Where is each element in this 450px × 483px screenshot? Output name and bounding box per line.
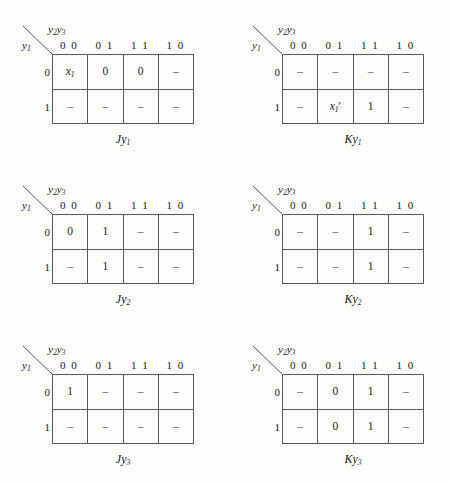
literal-value: 0 xyxy=(103,66,109,78)
column-variable-label: y2y3 xyxy=(278,343,295,355)
kmap-cell: 1 xyxy=(354,90,389,123)
row-header: 1 xyxy=(258,409,280,444)
column-header: 0 1 xyxy=(318,359,354,371)
dont-care-symbol: – xyxy=(173,101,179,113)
column-header: 0 0 xyxy=(52,359,88,371)
kmap-cell: – xyxy=(318,55,353,89)
kmap-cell: – xyxy=(389,55,423,89)
row-header-column: 01 xyxy=(28,374,50,444)
kmap-grid-row: –––– xyxy=(53,409,193,443)
row-header: 1 xyxy=(28,249,50,284)
column-header: 1 0 xyxy=(389,359,425,371)
dont-care-symbol: – xyxy=(173,261,179,273)
kmap-ky2: y2y3y10 00 11 11 001––1–––1–Ky2 xyxy=(244,182,444,332)
kmap-cell: – xyxy=(124,375,159,409)
row-header-column: 01 xyxy=(28,54,50,124)
row-header-column: 01 xyxy=(28,214,50,284)
kmap-cell: 1 xyxy=(354,375,389,409)
column-header-row: 0 00 11 11 0 xyxy=(52,39,194,51)
kmap-cell: – xyxy=(389,90,423,123)
literal-value: 0 xyxy=(333,386,339,398)
kmap-grid-row: –01– xyxy=(283,409,423,443)
dont-care-symbol: – xyxy=(403,101,409,113)
column-header: 0 1 xyxy=(88,39,124,51)
kmap-cell: – xyxy=(283,215,318,249)
kmap-cell: – xyxy=(318,250,353,283)
literal-value: 1 xyxy=(368,261,374,273)
column-header: 1 0 xyxy=(159,39,195,51)
column-header: 1 1 xyxy=(353,39,389,51)
column-variable-label: y2y3 xyxy=(278,183,295,195)
column-header: 1 0 xyxy=(159,359,195,371)
kmap-caption: Ky1 xyxy=(282,132,424,147)
kmap-grid: 1––––––– xyxy=(52,374,194,444)
kmap-cell: – xyxy=(283,410,318,443)
dont-care-symbol: – xyxy=(138,421,144,433)
row-variable-label: y1 xyxy=(22,359,31,371)
row-variable-label: y1 xyxy=(252,199,261,211)
kmap-ky1: y2y3y10 00 11 11 001–––––x1′1–Ky1 xyxy=(244,22,444,172)
kmap-caption: Jy3 xyxy=(52,452,194,467)
kmap-caption: Ky3 xyxy=(282,452,424,467)
dont-care-symbol: – xyxy=(297,261,303,273)
column-header: 1 0 xyxy=(159,199,195,211)
column-header: 0 1 xyxy=(88,199,124,211)
column-header: 1 1 xyxy=(353,359,389,371)
kmap-cell: x1 xyxy=(53,55,88,89)
kmap-cell: – xyxy=(283,375,318,409)
variable-term: x1 xyxy=(66,66,75,78)
kmap-cell: 0 xyxy=(318,410,353,443)
dont-care-symbol: – xyxy=(103,101,109,113)
dont-care-symbol: – xyxy=(138,261,144,273)
kmap-cell: – xyxy=(124,215,159,249)
kmap-grid-row: ––1– xyxy=(283,249,423,283)
kmap-cell: – xyxy=(53,90,88,123)
kmap-cell: 1 xyxy=(88,215,123,249)
dont-care-symbol: – xyxy=(67,101,73,113)
column-variable-label: y2y3 xyxy=(48,23,65,35)
row-header: 1 xyxy=(28,89,50,124)
kmap-cell: – xyxy=(53,410,88,443)
kmap-cell: – xyxy=(124,90,159,123)
dont-care-symbol: – xyxy=(173,386,179,398)
kmap-ky3: y2y3y10 00 11 11 001–01––01–Ky3 xyxy=(244,342,444,483)
dont-care-symbol: – xyxy=(297,421,303,433)
kmap-cell: – xyxy=(159,410,193,443)
dont-care-symbol: – xyxy=(403,421,409,433)
kmap-grid-row: –1–– xyxy=(53,249,193,283)
dont-care-symbol: – xyxy=(138,226,144,238)
literal-value: 1 xyxy=(103,226,109,238)
literal-value: 0 xyxy=(67,226,73,238)
dont-care-symbol: – xyxy=(67,421,73,433)
dont-care-symbol: – xyxy=(297,226,303,238)
kmap-cell: 1 xyxy=(354,215,389,249)
dont-care-symbol: – xyxy=(403,261,409,273)
column-header-row: 0 00 11 11 0 xyxy=(282,39,424,51)
literal-value: 1 xyxy=(103,261,109,273)
column-header-row: 0 00 11 11 0 xyxy=(52,199,194,211)
dont-care-symbol: – xyxy=(368,66,374,78)
kmap-cell: 0 xyxy=(318,375,353,409)
literal-value: 1 xyxy=(368,101,374,113)
column-header: 1 1 xyxy=(123,199,159,211)
kmap-grid-row: –––– xyxy=(53,89,193,123)
kmap-cell: 1 xyxy=(53,375,88,409)
dont-care-symbol: – xyxy=(138,101,144,113)
kmap-cell: – xyxy=(159,215,193,249)
kmap-caption: Jy2 xyxy=(52,292,194,307)
kmap-cell: – xyxy=(283,55,318,89)
dont-care-symbol: – xyxy=(67,261,73,273)
column-variable-label: y2y3 xyxy=(278,23,295,35)
kmap-caption: Ky2 xyxy=(282,292,424,307)
row-header: 0 xyxy=(28,374,50,409)
kmap-cell: 0 xyxy=(53,215,88,249)
row-variable-label: y1 xyxy=(252,39,261,51)
row-header: 0 xyxy=(258,214,280,249)
dont-care-symbol: – xyxy=(403,226,409,238)
variable-term: x1′ xyxy=(330,101,341,113)
dont-care-symbol: – xyxy=(333,66,339,78)
kmap-cell: – xyxy=(88,375,123,409)
kmap-grid: ––1–––1– xyxy=(282,214,424,284)
dont-care-symbol: – xyxy=(138,386,144,398)
column-variable-label: y2y3 xyxy=(48,343,65,355)
